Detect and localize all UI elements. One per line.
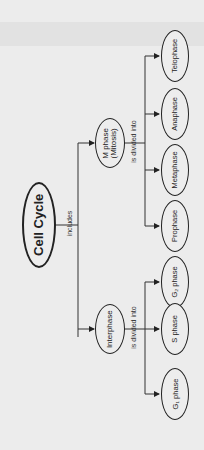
g2-phase-label: G₂ phase xyxy=(171,266,179,297)
metaphase-label: Metaphase xyxy=(171,151,179,188)
telophase-label: Telophase xyxy=(171,39,179,73)
s-phase-label: S phase xyxy=(171,315,179,343)
g1-phase-node: G₁ phase xyxy=(161,368,189,420)
g2-phase-node: G₂ phase xyxy=(161,256,189,308)
m-phase-line1: M phase xyxy=(101,128,110,159)
prophase-node: Prophase xyxy=(161,200,189,252)
cell-cycle-node: Cell Cycle xyxy=(22,182,56,268)
m-phase-line2: (Mitosis) xyxy=(109,128,118,158)
cell-cycle-label: Cell Cycle xyxy=(32,194,46,256)
telophase-node: Telophase xyxy=(161,30,189,82)
g1-phase-label: G₁ phase xyxy=(171,379,179,410)
interphase-divided-label: is divided into xyxy=(130,302,137,354)
s-phase-node: S phase xyxy=(161,303,189,355)
anaphase-label: Anaphase xyxy=(171,97,179,131)
interphase-label: Interphase xyxy=(106,310,114,348)
metaphase-node: Metaphase xyxy=(161,144,189,196)
interphase-node: Interphase xyxy=(95,304,125,354)
m-phase-node: M phase (Mitosis) xyxy=(95,118,125,168)
prophase-label: Prophase xyxy=(171,210,179,242)
anaphase-node: Anaphase xyxy=(161,88,189,140)
includes-label: includes xyxy=(66,206,73,242)
m-phase-label: M phase (Mitosis) xyxy=(102,128,119,159)
m-phase-divided-label: is divided into xyxy=(130,116,137,168)
